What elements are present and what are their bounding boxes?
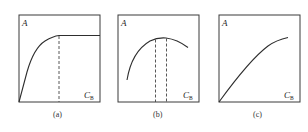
panel-b-curve xyxy=(127,38,188,80)
panel-a-caption: (a) xyxy=(53,110,62,119)
panel-b: A CB (b) xyxy=(118,15,199,119)
figure-canvas: A CB (a) A CB (b) A CB (c) xyxy=(0,0,308,132)
panel-b-y-label: A xyxy=(120,18,127,28)
panel-a: A CB (a) xyxy=(19,15,100,119)
panel-b-caption: (b) xyxy=(153,110,163,119)
panel-c-y-label: A xyxy=(221,18,228,28)
panel-a-x-label: CB xyxy=(84,90,94,101)
panel-c-frame xyxy=(219,15,300,102)
panel-c-caption: (c) xyxy=(253,110,262,119)
panel-b-x-label: CB xyxy=(183,90,193,101)
panel-c-curve xyxy=(219,38,288,103)
panel-b-frame xyxy=(118,15,199,102)
panel-a-frame xyxy=(19,15,100,102)
panel-c: A CB (c) xyxy=(219,15,300,119)
panel-c-x-label: CB xyxy=(284,90,294,101)
panel-a-y-label: A xyxy=(21,18,28,28)
